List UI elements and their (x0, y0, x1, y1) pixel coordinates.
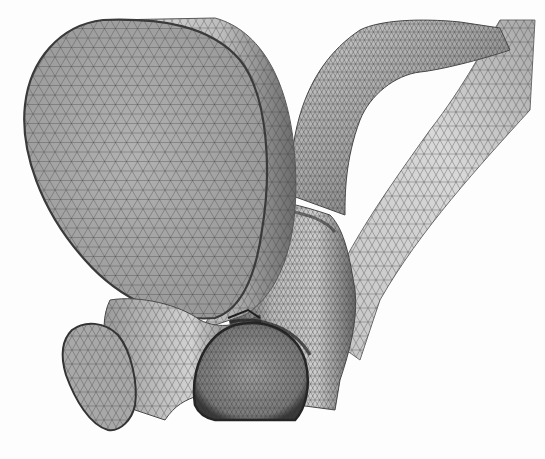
mesh-render (0, 0, 545, 459)
mesh-figure: 3D triangulated surface mesh of branchin… (0, 0, 545, 459)
